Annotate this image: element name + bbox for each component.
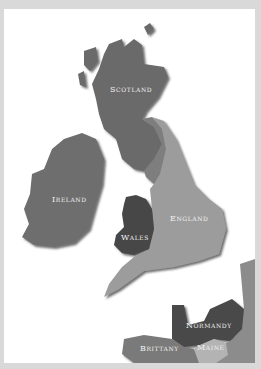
label-england: England [170, 214, 208, 223]
label-maine: Maine [197, 343, 225, 352]
label-ireland: Ireland [52, 195, 87, 204]
map-frame: Scotland Ireland Wales England Normandy … [4, 9, 255, 363]
wales-region [114, 195, 154, 255]
label-brittany: Brittany [140, 344, 179, 353]
label-wales: Wales [121, 233, 149, 242]
map-svg [4, 9, 255, 363]
label-normandy: Normandy [186, 321, 232, 330]
label-scotland: Scotland [110, 85, 152, 94]
ireland-region [22, 133, 104, 247]
